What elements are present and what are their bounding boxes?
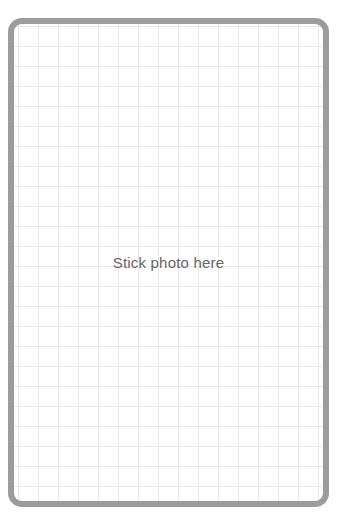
- placeholder-label: Stick photo here: [113, 254, 225, 271]
- photo-placeholder-frame[interactable]: Stick photo here: [8, 18, 329, 507]
